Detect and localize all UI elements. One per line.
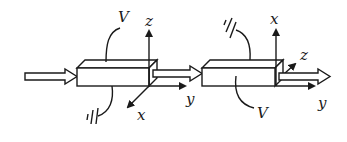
voltage-label-1: V — [118, 8, 131, 26]
ground-plate-icon — [96, 108, 98, 124]
ground-1 — [87, 86, 112, 124]
axis-label-x-2: x — [270, 10, 279, 28]
ground-plate-icon — [230, 22, 236, 38]
axis-label-z-2: z — [299, 46, 308, 64]
ground-2 — [224, 18, 250, 60]
axis-label-x-1: x — [137, 106, 146, 124]
voltage-lead-1: V — [106, 8, 131, 62]
x-axis-arrow-icon — [128, 86, 149, 107]
voltage-label-2: V — [257, 104, 270, 122]
crystal-2 — [202, 60, 283, 86]
axis-label-z-1: z — [144, 12, 153, 30]
crystal-1 — [77, 60, 157, 86]
input-beam-arrow — [25, 69, 77, 84]
axis-label-y-1: y — [185, 90, 195, 108]
middle-beam-arrow — [153, 66, 202, 81]
electro-optic-modulator-diagram: V z x y V x z — [0, 0, 347, 142]
axis-label-y-2: y — [317, 94, 327, 112]
